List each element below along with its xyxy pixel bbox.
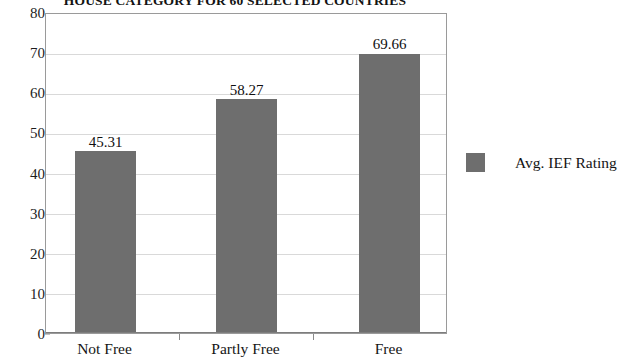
chart-legend: Avg. IEF Rating [466, 153, 617, 172]
bar-chart-figure: HOUSE CATEGORY FOR 60 SELECTED COUNTRIES… [0, 0, 630, 359]
x-axis-baseline [46, 332, 446, 333]
x-axis: Not Free Partly Free Free [45, 334, 447, 359]
plot-area: 45.31 58.27 69.66 [45, 13, 447, 334]
bar-value-label: 69.66 [373, 37, 407, 52]
x-tick-label-partly-free: Partly Free [211, 341, 279, 357]
bar-not-free [75, 151, 136, 333]
x-tick-label-not-free: Not Free [77, 341, 132, 357]
bar-value-label: 45.31 [89, 135, 123, 150]
x-tick-mark [179, 334, 180, 340]
bar-value-label: 58.27 [230, 83, 264, 98]
bar-partly-free [216, 99, 277, 333]
legend-swatch-square-icon [466, 153, 485, 172]
chart-title: HOUSE CATEGORY FOR 60 SELECTED COUNTRIES [0, 0, 470, 9]
x-tick-label-free: Free [375, 341, 403, 357]
x-tick-mark [313, 334, 314, 340]
bar-free [359, 54, 420, 334]
legend-label: Avg. IEF Rating [515, 155, 617, 171]
